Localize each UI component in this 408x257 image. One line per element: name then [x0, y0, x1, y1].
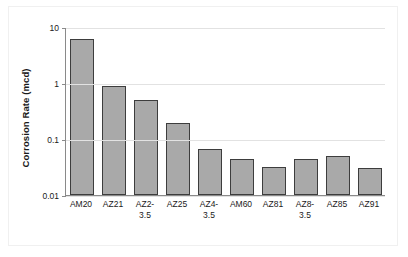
x-tick-label: AZ25 [161, 199, 193, 210]
gridline-y [66, 84, 385, 85]
x-axis-labels: AM20AZ21AZ2- 3.5AZ25AZ4- 3.5AM60AZ81AZ8-… [65, 199, 385, 239]
x-tick-label: AZ81 [257, 199, 289, 210]
bar [294, 159, 317, 195]
bar [326, 156, 349, 195]
x-tick-label: AM60 [225, 199, 257, 210]
bar [134, 100, 157, 195]
y-tick-mark [62, 140, 66, 141]
x-tick-label: AZ85 [321, 199, 353, 210]
bar [198, 149, 221, 195]
y-tick-label: 1 [54, 80, 59, 89]
y-tick-mark [62, 28, 66, 29]
plot-area: 1010.10.01 [65, 28, 385, 196]
bar [166, 123, 189, 195]
y-tick-label: 0.1 [47, 136, 59, 145]
y-tick-label: 10 [50, 24, 59, 33]
bar [358, 168, 381, 195]
y-axis-title: Corrosion Rate (mcd) [18, 30, 34, 206]
gridline-y [66, 140, 385, 141]
x-tick-label: AZ21 [97, 199, 129, 210]
bars-layer [66, 28, 385, 195]
gridline-y [66, 196, 385, 197]
x-tick-label: AM20 [65, 199, 97, 210]
x-tick-label: AZ91 [353, 199, 385, 210]
y-tick-label: 0.01 [42, 192, 59, 201]
x-tick-label: AZ8- 3.5 [289, 199, 321, 220]
bar [262, 167, 285, 195]
corrosion-rate-bar-chart: Corrosion Rate (mcd) 1010.10.01 AM20AZ21… [0, 0, 408, 257]
x-tick-label: AZ2- 3.5 [129, 199, 161, 220]
y-tick-mark [62, 196, 66, 197]
gridline-y [66, 28, 385, 29]
bar [230, 159, 253, 195]
y-tick-mark [62, 84, 66, 85]
bar [70, 39, 93, 195]
x-tick-label: AZ4- 3.5 [193, 199, 225, 220]
